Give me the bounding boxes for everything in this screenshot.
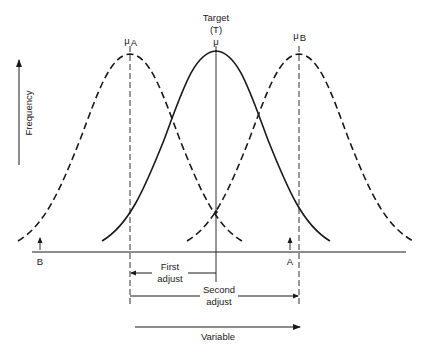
variable-axis-label: Variable [201,331,235,342]
frequency-axis-label: Frequency [23,90,34,135]
mu-label: μ [213,36,218,47]
distribution-b-curve [187,54,413,241]
point-a-label: A [287,256,294,267]
mu-b-subscript: B [300,32,306,43]
target-symbol-label: (T) [210,24,222,35]
mu-b-label: μ [293,30,298,41]
second-adjust-label-line2: adjust [206,296,232,307]
first-adjust-label-line1: First [161,261,180,272]
intersection-dot [214,210,218,214]
second-adjust-label-line1: Second [203,284,235,295]
mu-a-subscript: A [131,37,138,48]
first-adjust-label-line2: adjust [157,273,183,284]
point-b-label: B [37,256,43,267]
adjustment-diagram: Frequency Target (T) μ μ A μ B B A First… [0,0,425,352]
mu-a-label: μ [124,35,129,46]
target-label: Target [203,12,230,23]
